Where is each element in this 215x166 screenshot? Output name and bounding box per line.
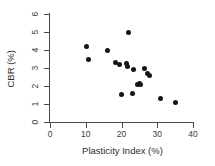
y-axis-tick-label: 3 [28, 61, 42, 75]
y-axis-title-label: CBR (%) [6, 50, 16, 87]
y-axis-tick [44, 86, 49, 87]
data-point [131, 67, 136, 72]
y-axis-tick [44, 122, 49, 123]
x-axis-tick [86, 123, 87, 128]
y-axis-tick-label: 6 [28, 7, 42, 21]
x-axis-tick-label: 10 [74, 130, 98, 139]
y-axis-title: CBR (%) [4, 34, 18, 104]
y-axis-tick [44, 68, 49, 69]
x-axis-tick [193, 123, 194, 128]
y-axis-tick-label: 0 [28, 115, 42, 129]
plot-area [50, 14, 193, 122]
scatter-chart-figure: CBR (%) 0123456 010203040 Plasticity Ind… [0, 0, 215, 166]
x-axis-tick-label: 30 [145, 130, 169, 139]
y-axis-tick-label: 2 [28, 79, 42, 93]
x-axis-tick [122, 123, 123, 128]
data-point [117, 62, 122, 67]
data-point [119, 92, 124, 97]
data-point [125, 64, 130, 69]
y-axis-tick-label: 5 [28, 25, 42, 39]
y-axis-tick [44, 50, 49, 51]
data-point [86, 57, 91, 62]
data-point [84, 44, 89, 49]
x-axis-title-label: Plasticity Index (%) [82, 145, 163, 156]
x-axis-tick-label: 0 [38, 130, 62, 139]
y-axis-tick-label: 1 [28, 97, 42, 111]
x-axis-tick-label: 40 [181, 130, 205, 139]
y-axis-tick [44, 104, 49, 105]
x-axis-tick-label: 20 [110, 130, 134, 139]
data-point [138, 82, 143, 87]
data-point [130, 91, 135, 96]
y-axis-tick [44, 14, 49, 15]
data-point [173, 100, 178, 105]
x-axis-tick [50, 123, 51, 128]
data-point [147, 73, 152, 78]
x-axis-tick [157, 123, 158, 128]
data-point [158, 96, 163, 101]
y-axis-tick [44, 32, 49, 33]
data-point [126, 30, 131, 35]
y-axis-tick-label: 4 [28, 43, 42, 57]
data-point [105, 48, 110, 53]
x-axis-title: Plasticity Index (%) [40, 146, 205, 156]
